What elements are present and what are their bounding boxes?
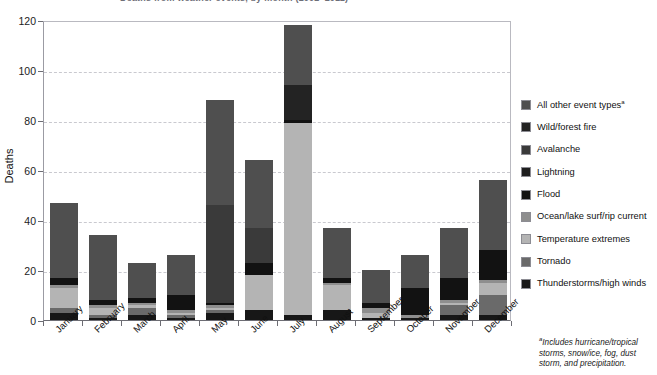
legend-swatch-icon bbox=[521, 190, 531, 200]
x-axis-tick bbox=[199, 321, 200, 326]
plot-wrapper: Deaths 020406080100120 JanuaryFebruaryMa… bbox=[0, 0, 520, 375]
x-axis-tick bbox=[355, 321, 356, 326]
bar-segment bbox=[206, 100, 234, 205]
legend-item-label: Wild/forest fire bbox=[537, 123, 596, 132]
bar-segment bbox=[245, 228, 273, 263]
bar-segment bbox=[245, 275, 273, 310]
legend-item[interactable]: Ocean/lake surf/rip current bbox=[521, 210, 657, 224]
legend-item[interactable]: Lightning bbox=[521, 165, 657, 179]
y-axis-tick-label: 120 bbox=[2, 16, 36, 27]
x-axis-tick bbox=[394, 321, 395, 326]
footnote: aIncludes hurricane/tropical storms, sno… bbox=[539, 336, 657, 370]
bar-segment bbox=[50, 288, 78, 308]
legend-item[interactable]: All other event typesa bbox=[521, 98, 657, 112]
x-axis-tick bbox=[160, 321, 161, 326]
bar-segment bbox=[50, 203, 78, 278]
legend-superscript: a bbox=[621, 99, 624, 105]
bar-segment bbox=[206, 205, 234, 303]
legend-item[interactable]: Thunderstorms/high winds bbox=[521, 277, 657, 291]
bar-january[interactable] bbox=[50, 203, 78, 321]
y-axis-tick-label: 80 bbox=[2, 116, 36, 127]
legend: All other event typesaWild/forest fireAv… bbox=[521, 98, 657, 300]
bar-segment bbox=[89, 235, 117, 300]
bar-june[interactable] bbox=[245, 160, 273, 320]
bar-december[interactable] bbox=[479, 180, 507, 320]
bar-segment bbox=[167, 295, 195, 310]
bar-segment bbox=[479, 283, 507, 296]
footnote-text: Includes hurricane/tropical storms, snow… bbox=[539, 338, 638, 369]
bar-segment bbox=[362, 270, 390, 303]
x-axis-tick bbox=[433, 321, 434, 326]
gridline bbox=[44, 222, 510, 223]
bar-segment bbox=[284, 85, 312, 120]
y-axis-tick-label: 20 bbox=[2, 266, 36, 277]
x-axis-tick bbox=[511, 321, 512, 326]
legend-item-label: All other event typesa bbox=[537, 99, 625, 110]
legend-item[interactable]: Tornado bbox=[521, 255, 657, 269]
legend-item-label: Avalanche bbox=[537, 145, 580, 154]
legend-item[interactable]: Temperature extremes bbox=[521, 232, 657, 246]
gridline bbox=[44, 72, 510, 73]
chart-page: Deaths from weather events, by month (20… bbox=[0, 0, 657, 375]
bar-segment bbox=[479, 180, 507, 250]
bar-segment bbox=[284, 25, 312, 85]
bar-segment bbox=[167, 255, 195, 295]
x-axis-tick bbox=[472, 321, 473, 326]
bar-segment bbox=[323, 228, 351, 278]
legend-swatch-icon bbox=[521, 234, 531, 244]
legend-swatch-icon bbox=[521, 100, 531, 110]
y-axis-tick-label: 60 bbox=[2, 166, 36, 177]
legend-swatch-icon bbox=[521, 167, 531, 177]
bar-segment bbox=[245, 263, 273, 276]
bar-segment bbox=[128, 263, 156, 298]
y-axis-tick-label: 0 bbox=[2, 316, 36, 327]
x-axis-tick bbox=[238, 321, 239, 326]
gridline bbox=[44, 122, 510, 123]
bar-april[interactable] bbox=[167, 255, 195, 320]
bar-segment bbox=[479, 250, 507, 280]
bar-may[interactable] bbox=[206, 100, 234, 320]
legend-item[interactable]: Avalanche bbox=[521, 143, 657, 157]
legend-item-label: Thunderstorms/high winds bbox=[537, 279, 646, 288]
bar-segment bbox=[401, 255, 429, 288]
bar-segment bbox=[284, 123, 312, 316]
legend-item-label: Lightning bbox=[537, 168, 575, 177]
x-axis-tick bbox=[316, 321, 317, 326]
legend-item-label: Temperature extremes bbox=[537, 235, 630, 244]
legend-item-label: Ocean/lake surf/rip current bbox=[537, 212, 647, 221]
legend-item[interactable]: Wild/forest fire bbox=[521, 120, 657, 134]
plot-area bbox=[43, 21, 511, 321]
y-axis-tick-label: 100 bbox=[2, 66, 36, 77]
legend-swatch-icon bbox=[521, 279, 531, 289]
legend-item-label: Tornado bbox=[537, 257, 571, 266]
legend-item[interactable]: Flood bbox=[521, 188, 657, 202]
legend-swatch-icon bbox=[521, 212, 531, 222]
y-axis: Deaths 020406080100120 bbox=[0, 0, 40, 375]
legend-swatch-icon bbox=[521, 145, 531, 155]
bar-segment bbox=[440, 228, 468, 278]
y-axis-tick-label: 40 bbox=[2, 216, 36, 227]
bar-segment bbox=[50, 278, 78, 286]
bar-segment bbox=[245, 160, 273, 228]
x-axis-tick bbox=[121, 321, 122, 326]
x-axis-tick bbox=[43, 321, 44, 326]
x-axis-tick bbox=[277, 321, 278, 326]
bar-july[interactable] bbox=[284, 25, 312, 320]
legend-swatch-icon bbox=[521, 257, 531, 267]
legend-swatch-icon bbox=[521, 122, 531, 132]
x-axis-tick bbox=[82, 321, 83, 326]
bar-segment bbox=[440, 278, 468, 301]
gridline bbox=[44, 172, 510, 173]
legend-item-label: Flood bbox=[537, 190, 560, 199]
